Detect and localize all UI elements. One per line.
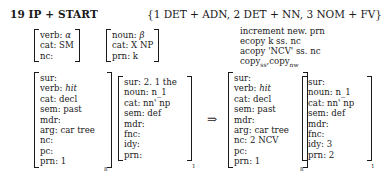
- feature-row: prn: 2: [308, 150, 366, 160]
- output-verb-structure: sur: verb: hit cat: decl sem: past mdr: …: [228, 72, 308, 168]
- feature-row: verb: hit: [40, 83, 106, 93]
- feature-row: prn: k: [112, 51, 153, 61]
- feature-row: cat: decl: [234, 94, 302, 104]
- feature-row: cat: nn' np: [308, 98, 366, 108]
- operation-line: increment new. prn: [240, 26, 325, 36]
- feature-row: mdr:: [308, 119, 366, 129]
- feature-row: mdr:: [124, 119, 186, 129]
- pattern-left-structure: verb: α cat: SM nc:: [34, 29, 80, 62]
- input-verb-subscript: 8: [104, 166, 108, 172]
- feature-row: sem: def: [308, 108, 366, 118]
- copy-line: copyss,copynw: [240, 56, 325, 70]
- feature-row: arg: car tree: [40, 125, 106, 135]
- feature-row: noun: n_1: [124, 87, 186, 97]
- feature-row: sur:: [40, 73, 106, 83]
- output-noun-structure: sur: noun: n_1 cat: nn' np sem: def mdr:…: [302, 76, 372, 161]
- feature-row: nc:: [40, 51, 74, 61]
- rule-operations: increment new. prn ecopy k ss. nc acopy …: [240, 26, 325, 70]
- feature-row: mdr:: [40, 115, 106, 125]
- feature-row: cat: SM: [40, 40, 74, 50]
- feature-row: sem: past: [40, 104, 106, 114]
- feature-row: prn: 1: [234, 156, 302, 166]
- feature-row: nc:: [40, 135, 106, 145]
- feature-row: mdr:: [234, 115, 302, 125]
- feature-row: cat: X NP: [112, 40, 153, 50]
- output-verb-subscript: 8: [300, 166, 304, 172]
- feature-row: nc: 2 NCV: [234, 135, 302, 145]
- feature-row: sem: past: [234, 104, 302, 114]
- operation-line: acopy 'NCV' ss. nc: [240, 46, 325, 56]
- feature-row: fnc:: [308, 129, 366, 139]
- feature-row: pc:: [40, 146, 106, 156]
- operation-line: ecopy k ss. nc: [240, 36, 325, 46]
- feature-row: arg: car tree: [234, 125, 302, 135]
- feature-row: fnc:: [124, 129, 186, 139]
- input-noun-structure: sur: 2. 1 the noun: n_1 cat: nn' np sem:…: [118, 76, 192, 161]
- feature-row: sur: 2. 1 the: [124, 77, 186, 87]
- feature-row: cat: decl: [40, 94, 106, 104]
- feature-row: noun: n_1: [308, 87, 366, 97]
- output-noun-subscript: 1: [371, 163, 375, 169]
- feature-row: sur:: [234, 73, 302, 83]
- feature-row: sur:: [308, 77, 366, 87]
- feature-row: idy:: [124, 139, 186, 149]
- feature-row: cat: nn' np: [124, 98, 186, 108]
- feature-row: verb: hit: [234, 83, 302, 93]
- feature-row: pc:: [234, 146, 302, 156]
- input-verb-structure: sur: verb: hit cat: decl sem: past mdr: …: [34, 72, 112, 168]
- feature-row: verb: α: [40, 30, 74, 40]
- feature-row: noun: β: [112, 30, 153, 40]
- feature-row: sem: def: [124, 108, 186, 118]
- rule-pattern: {1 DET + ADN, 2 DET + NN, 3 NOM + FV}: [147, 8, 382, 20]
- feature-row: prn:: [124, 150, 186, 160]
- input-noun-subscript: 1: [192, 163, 196, 169]
- rule-title: 19 IP + START: [10, 8, 98, 20]
- feature-row: idy: 3: [308, 139, 366, 149]
- transition-arrow-icon: ⇒: [207, 112, 217, 126]
- feature-row: prn: 1: [40, 156, 106, 166]
- pattern-right-structure: noun: β cat: X NP prn: k: [106, 29, 159, 62]
